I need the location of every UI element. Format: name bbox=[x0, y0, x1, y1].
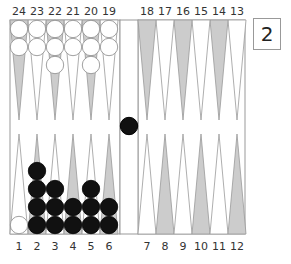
point-label-2: 2 bbox=[34, 240, 41, 253]
black-checker[interactable] bbox=[28, 162, 45, 179]
point-label-6: 6 bbox=[106, 240, 113, 253]
white-checker[interactable] bbox=[64, 20, 81, 37]
point-label-22: 22 bbox=[48, 5, 62, 18]
point-label-14: 14 bbox=[212, 5, 226, 18]
white-checker[interactable] bbox=[82, 56, 99, 73]
point-label-11: 11 bbox=[212, 240, 226, 253]
black-checker[interactable] bbox=[46, 198, 63, 215]
white-checker[interactable] bbox=[64, 38, 81, 55]
white-checker[interactable] bbox=[28, 20, 45, 37]
white-checker[interactable] bbox=[10, 216, 27, 233]
black-checker[interactable] bbox=[28, 198, 45, 215]
point-label-18: 18 bbox=[140, 5, 154, 18]
point-label-7: 7 bbox=[144, 240, 151, 253]
doubling-cube[interactable]: 2 bbox=[253, 18, 281, 50]
black-checker[interactable] bbox=[46, 216, 63, 233]
black-checker[interactable] bbox=[46, 180, 63, 197]
point-label-10: 10 bbox=[194, 240, 208, 253]
white-checker[interactable] bbox=[10, 38, 27, 55]
black-checker[interactable] bbox=[64, 216, 81, 233]
black-checker[interactable] bbox=[82, 216, 99, 233]
point-label-17: 17 bbox=[158, 5, 172, 18]
point-label-19: 19 bbox=[102, 5, 116, 18]
point-label-5: 5 bbox=[88, 240, 95, 253]
point-label-15: 15 bbox=[194, 5, 208, 18]
white-checker[interactable] bbox=[82, 20, 99, 37]
point-label-1: 1 bbox=[16, 240, 23, 253]
point-label-4: 4 bbox=[70, 240, 77, 253]
right-half bbox=[138, 20, 245, 234]
point-label-8: 8 bbox=[162, 240, 169, 253]
white-checker[interactable] bbox=[46, 56, 63, 73]
black-checker[interactable] bbox=[28, 180, 45, 197]
point-label-12: 12 bbox=[230, 240, 244, 253]
point-label-24: 24 bbox=[12, 5, 26, 18]
black-checker[interactable] bbox=[82, 198, 99, 215]
white-checker[interactable] bbox=[82, 38, 99, 55]
black-checker[interactable] bbox=[82, 180, 99, 197]
point-label-21: 21 bbox=[66, 5, 80, 18]
black-checker[interactable] bbox=[64, 198, 81, 215]
point-label-13: 13 bbox=[230, 5, 244, 18]
point-label-23: 23 bbox=[30, 5, 44, 18]
backgammon-board[interactable]: 123456789101112131415161718192021222324 bbox=[0, 0, 291, 264]
white-checker[interactable] bbox=[100, 20, 117, 37]
point-label-20: 20 bbox=[84, 5, 98, 18]
white-checker[interactable] bbox=[28, 38, 45, 55]
white-checker[interactable] bbox=[46, 20, 63, 37]
point-label-9: 9 bbox=[180, 240, 187, 253]
black-checker[interactable] bbox=[28, 216, 45, 233]
black-checker[interactable] bbox=[100, 198, 117, 215]
bar-black-checker[interactable] bbox=[120, 117, 137, 134]
black-checker[interactable] bbox=[100, 216, 117, 233]
white-checker[interactable] bbox=[46, 38, 63, 55]
white-checker[interactable] bbox=[100, 38, 117, 55]
point-label-3: 3 bbox=[52, 240, 59, 253]
white-checker[interactable] bbox=[10, 20, 27, 37]
point-label-16: 16 bbox=[176, 5, 190, 18]
